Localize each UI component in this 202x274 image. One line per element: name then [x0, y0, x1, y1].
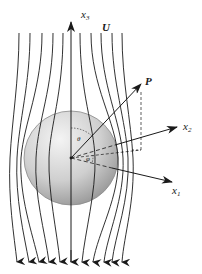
x1-label: x1: [172, 185, 180, 198]
phi-label: φ: [86, 156, 90, 163]
x2-label: x2: [183, 121, 191, 134]
diagram-canvas: [0, 0, 202, 274]
p-label: P: [145, 76, 152, 87]
u-label: U: [102, 22, 110, 33]
origin-point: [70, 157, 73, 160]
x3-label: x3: [81, 9, 89, 22]
flow-diagram: x3 U P x2 x1 θ φ: [0, 0, 202, 274]
theta-label: θ: [77, 136, 80, 143]
streamline-11: [122, 33, 133, 262]
